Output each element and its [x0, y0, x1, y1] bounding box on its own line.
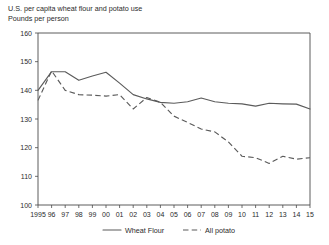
legend-label-all-potato: All potato [205, 226, 235, 235]
x-tick-label: 02 [129, 211, 137, 218]
y-tick-label: 160 [20, 30, 32, 37]
series-line-wheat-flour [38, 72, 310, 109]
x-tick-label: 11 [252, 211, 259, 218]
x-tick-label: 09 [225, 211, 233, 218]
x-tick-label: 01 [116, 211, 124, 218]
y-tick-label: 120 [20, 144, 32, 151]
x-tick-label: 05 [170, 211, 178, 218]
x-tick-label: 14 [293, 211, 301, 218]
x-tick-label: 00 [102, 211, 110, 218]
y-tick-label: 110 [21, 173, 32, 180]
legend-label-wheat-flour: Wheat Flour [125, 226, 165, 235]
x-tick-label: 97 [61, 211, 69, 218]
x-tick-label: 04 [157, 211, 165, 218]
x-tick-label: 13 [279, 211, 287, 218]
x-tick-label: 08 [211, 211, 219, 218]
chart-legend: Wheat FlourAll potato [103, 226, 235, 235]
y-tick-label: 150 [20, 58, 32, 65]
y-tick-label: 130 [20, 116, 32, 123]
x-tick-label: 1995 [30, 211, 46, 218]
x-axis: 1995969798990001020304050607080910111213… [30, 205, 314, 218]
plot-frame [38, 33, 310, 205]
y-tick-label: 140 [20, 87, 32, 94]
x-tick-label: 98 [75, 211, 83, 218]
x-tick-label: 96 [48, 211, 56, 218]
plot-border [38, 33, 310, 205]
y-tick-label: 100 [20, 202, 32, 209]
chart-container: U.S. per capita wheat flour and potato u… [0, 0, 329, 245]
x-tick-label: 10 [238, 211, 246, 218]
series-lines [38, 71, 310, 164]
x-tick-label: 15 [306, 211, 314, 218]
x-tick-label: 06 [184, 211, 192, 218]
x-tick-label: 03 [143, 211, 151, 218]
x-tick-label: 12 [265, 211, 273, 218]
x-tick-label: 99 [89, 211, 97, 218]
y-axis: 100110120130140150160 [20, 30, 38, 209]
x-tick-label: 07 [197, 211, 205, 218]
series-line-all-potato [38, 71, 310, 164]
line-chart-plot: 100110120130140150160 199596979899000102… [0, 0, 329, 245]
